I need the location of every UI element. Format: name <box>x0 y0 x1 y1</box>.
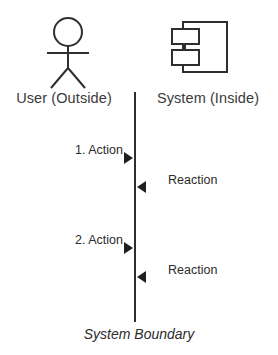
arrow-left-icon-reaction-1 <box>137 181 146 193</box>
stick-figure-actor-icon <box>38 14 98 90</box>
message-label-action-1: 1. Action <box>75 143 123 157</box>
arrow-left-icon-reaction-2 <box>137 271 146 283</box>
arrow-right-icon-action-2 <box>124 242 133 254</box>
message-label-reaction-1: Reaction <box>168 173 217 187</box>
system-boundary-line <box>134 92 136 322</box>
system-boundary-diagram: User (Outside) System (Inside) 1. Action… <box>0 0 278 355</box>
column-label-actor: User (Outside) <box>0 90 128 106</box>
boundary-caption: System Boundary <box>0 326 278 342</box>
message-label-reaction-2: Reaction <box>168 263 217 277</box>
message-label-action-2: 2. Action <box>75 233 123 247</box>
uml-component-icon <box>168 14 230 80</box>
arrow-right-icon-action-1 <box>124 152 133 164</box>
column-label-system: System (Inside) <box>142 90 274 106</box>
